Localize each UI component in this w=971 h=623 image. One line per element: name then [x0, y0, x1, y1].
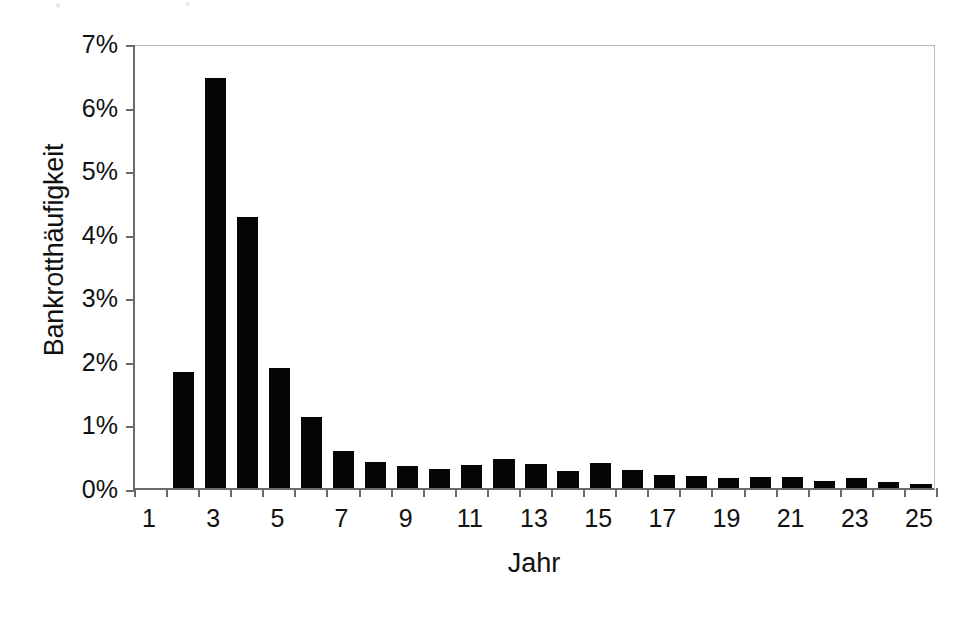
bar: [910, 484, 931, 488]
x-axis-tick: [359, 488, 361, 497]
x-axis-tick-label: 25: [889, 503, 949, 533]
x-axis-tick: [262, 488, 264, 497]
bar: [525, 464, 546, 488]
bar: [814, 481, 835, 488]
x-axis-tick: [840, 488, 842, 497]
bar: [750, 477, 771, 488]
x-axis-tick: [198, 488, 200, 497]
x-axis-tick-label: 5: [247, 503, 307, 533]
bar: [878, 482, 899, 488]
x-axis-tick-label: 3: [183, 503, 243, 533]
bar: [557, 471, 578, 488]
bar: [654, 475, 675, 488]
bar: [301, 417, 322, 488]
bar: [205, 78, 226, 488]
bar: [782, 477, 803, 488]
x-axis-tick: [808, 488, 810, 497]
scan-speckle: [185, 2, 190, 6]
bar: [237, 217, 258, 488]
x-axis-tick-label: 17: [632, 503, 692, 533]
y-axis-tick-label: 4%: [58, 223, 118, 248]
chart-figure: Bankrotthäufigkeit 0%1%2%3%4%5%6%7% 1357…: [0, 0, 971, 623]
bar: [397, 466, 418, 488]
y-axis-tick: [126, 426, 135, 428]
y-axis-tick-label: 1%: [58, 413, 118, 438]
x-axis-tick-label: 11: [440, 503, 500, 533]
x-axis-tick-label: 23: [825, 503, 885, 533]
x-axis-tick: [936, 488, 938, 497]
x-axis-tick-label: 9: [376, 503, 436, 533]
x-axis-tick: [551, 488, 553, 497]
x-axis-tick-label: 7: [312, 503, 372, 533]
y-axis-tick-labels: 0%1%2%3%4%5%6%7%: [58, 0, 118, 623]
bar: [333, 451, 354, 489]
y-axis-tick-label: 7%: [58, 32, 118, 57]
x-axis-tick: [166, 488, 168, 497]
y-axis-tick: [126, 236, 135, 238]
bar: [365, 462, 386, 488]
x-axis-tick: [776, 488, 778, 497]
x-axis-tick: [423, 488, 425, 497]
x-axis-tick: [615, 488, 617, 497]
x-axis-tick: [583, 488, 585, 497]
bar: [590, 463, 611, 488]
bar: [269, 368, 290, 488]
x-axis-tick-labels: 135791113151719212325: [133, 503, 935, 537]
plot-area: [133, 45, 935, 490]
x-axis-tick: [647, 488, 649, 497]
x-axis-tick: [455, 488, 457, 497]
bar: [718, 478, 739, 488]
bar: [429, 469, 450, 488]
x-axis-tick: [134, 488, 136, 497]
y-axis-tick: [126, 363, 135, 365]
y-axis-tick: [126, 45, 135, 47]
y-axis-tick-label: 3%: [58, 286, 118, 311]
bar: [173, 372, 194, 488]
x-axis-title: Jahr: [133, 548, 935, 579]
y-axis-tick-label: 6%: [58, 96, 118, 121]
x-axis-tick: [294, 488, 296, 497]
x-axis-tick: [230, 488, 232, 497]
x-axis-tick-label: 1: [119, 503, 179, 533]
y-axis-tick: [126, 109, 135, 111]
bar: [493, 459, 514, 488]
x-axis-tick: [872, 488, 874, 497]
x-axis-tick: [391, 488, 393, 497]
y-axis-tick-label: 0%: [58, 477, 118, 502]
bar: [622, 470, 643, 488]
bar: [686, 476, 707, 488]
x-axis-tick: [744, 488, 746, 497]
x-axis-tick-label: 19: [696, 503, 756, 533]
y-axis-tick: [126, 172, 135, 174]
y-axis-tick-label: 5%: [58, 159, 118, 184]
x-axis-tick: [679, 488, 681, 497]
y-axis-tick-label: 2%: [58, 350, 118, 375]
x-axis-tick: [711, 488, 713, 497]
x-axis-tick-label: 21: [761, 503, 821, 533]
bar: [461, 465, 482, 488]
x-axis-tick: [487, 488, 489, 497]
x-axis-tick: [326, 488, 328, 497]
x-axis-tick-label: 15: [568, 503, 628, 533]
bar: [846, 478, 867, 488]
x-axis-tick: [519, 488, 521, 497]
y-axis-tick: [126, 299, 135, 301]
x-axis-tick: [904, 488, 906, 497]
x-axis-tick-label: 13: [504, 503, 564, 533]
